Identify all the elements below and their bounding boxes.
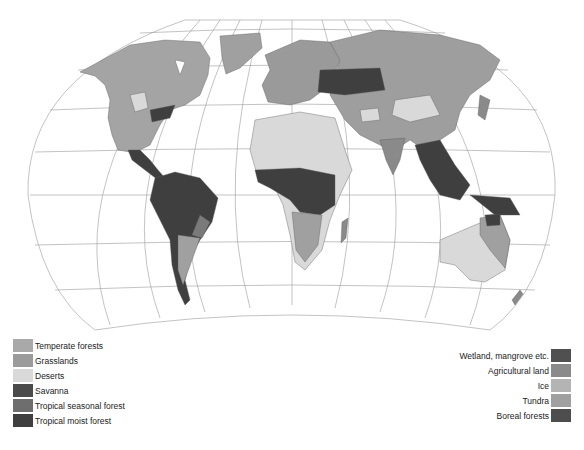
legend-label: Savanna (35, 386, 69, 396)
legend-label: Tropical seasonal forest (35, 401, 125, 411)
legend-item-temperate-forests: Temperate forests (13, 338, 125, 353)
legend-label: Grasslands (35, 356, 78, 366)
legend-label: Tundra (522, 396, 549, 406)
legend-label: Ice (538, 381, 549, 391)
legend-label: Tropical moist forest (35, 416, 111, 426)
india (380, 138, 405, 175)
southeast-asia (415, 140, 470, 200)
swatch-tropical-moist-forest (13, 414, 33, 428)
central-america (128, 150, 165, 180)
legend-left: Temperate forests Grasslands Deserts Sav… (13, 338, 125, 428)
swatch-deserts (13, 369, 33, 383)
legend-item-grasslands: Grasslands (13, 353, 125, 368)
legend-item-tropical-moist-forest: Tropical moist forest (13, 413, 125, 428)
swatch-temperate-forests (13, 339, 33, 353)
swatch-savanna (13, 384, 33, 398)
legend-item-deserts: Deserts (13, 368, 125, 383)
swatch-wetland (551, 349, 571, 363)
legend-right: Wetland, mangrove etc. Agricultural land… (459, 348, 571, 423)
legend-label: Boreal forests (497, 411, 549, 421)
madagascar (341, 218, 348, 243)
legend-label: Wetland, mangrove etc. (459, 351, 549, 361)
swatch-tundra (551, 394, 571, 408)
legend-label: Agricultural land (488, 366, 549, 376)
swatch-grasslands (13, 354, 33, 368)
swatch-agricultural-land (551, 364, 571, 378)
swatch-tropical-seasonal-forest (13, 399, 33, 413)
japan (478, 95, 490, 120)
legend-item-tropical-seasonal-forest: Tropical seasonal forest (13, 398, 125, 413)
legend-item-boreal-forests: Boreal forests (459, 408, 571, 423)
legend-item-agricultural-land: Agricultural land (459, 363, 571, 378)
legend-item-ice: Ice (459, 378, 571, 393)
swatch-ice (551, 379, 571, 393)
swatch-boreal-forests (551, 409, 571, 423)
legend-item-wetland: Wetland, mangrove etc. (459, 348, 571, 363)
legend-label: Temperate forests (35, 341, 103, 351)
legend-label: Deserts (35, 371, 64, 381)
legend-item-savanna: Savanna (13, 383, 125, 398)
world-biome-map (0, 0, 584, 340)
greenland (220, 33, 262, 74)
legend-item-tundra: Tundra (459, 393, 571, 408)
